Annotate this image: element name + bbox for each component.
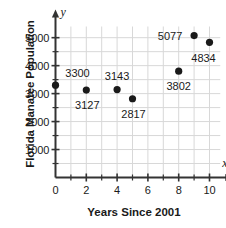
x-tick-label: 8: [176, 184, 182, 196]
data-point-label: 2817: [121, 108, 145, 120]
scatter-plot-figure: Florida Manatee Population Years Since 2…: [0, 0, 226, 228]
x-tick-label: 0: [52, 184, 58, 196]
y-tick-label: 5000: [2, 32, 50, 44]
y-tick-label: 2000: [2, 116, 50, 128]
data-point: [191, 32, 198, 39]
data-point: [114, 86, 121, 93]
x-tick-label: 6: [145, 184, 151, 196]
data-point: [206, 39, 213, 46]
y-tick-label: 3000: [2, 88, 50, 100]
x-axis-variable-symbol: x: [222, 156, 226, 171]
data-point: [83, 86, 90, 93]
data-point: [52, 82, 59, 89]
x-tick-label: 4: [114, 184, 120, 196]
y-axis-variable-symbol: y: [61, 5, 66, 20]
data-point-label: 3127: [75, 99, 99, 111]
x-tick-label: 10: [203, 184, 215, 196]
data-point-label: 3300: [65, 67, 89, 79]
x-tick-label: 2: [83, 184, 89, 196]
data-point: [129, 95, 136, 102]
y-tick-label: 1000: [2, 144, 50, 156]
data-point: [175, 68, 182, 75]
data-point-label: 4834: [191, 52, 215, 64]
data-point-label: 5077: [158, 30, 182, 42]
axes: [52, 10, 226, 182]
plot-area: 100020003000400050000246810yx33003127314…: [0, 0, 226, 228]
data-point-label: 3143: [105, 70, 129, 82]
y-tick-label: 4000: [2, 60, 50, 72]
data-point-label: 3802: [166, 80, 190, 92]
